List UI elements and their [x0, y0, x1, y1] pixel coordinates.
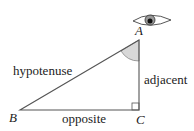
side-label-adjacent: adjacent — [144, 72, 188, 87]
vertex-label-a: A — [134, 23, 143, 38]
right-angle-square — [132, 103, 139, 110]
angle-arc — [121, 40, 139, 61]
vertex-label-c: C — [136, 112, 145, 127]
side-label-opposite: opposite — [62, 111, 106, 126]
triangle-diagram: A B C hypotenuse adjacent opposite — [0, 0, 194, 131]
side-label-hypotenuse: hypotenuse — [13, 63, 72, 78]
vertex-label-b: B — [9, 110, 17, 125]
